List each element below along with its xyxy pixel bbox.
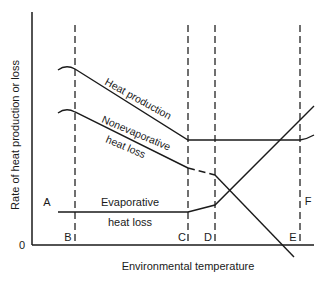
- evaporative-label-line1: Evaporative: [101, 196, 159, 208]
- evaporative-label-line2: heat loss: [108, 216, 153, 228]
- origin-label: 0: [19, 239, 25, 251]
- zone-label-f: F: [305, 195, 312, 207]
- y-axis-label: Rate of heat production or loss: [9, 60, 21, 210]
- zone-label-d: D: [204, 231, 212, 243]
- zone-label-c: C: [178, 231, 186, 243]
- zone-label-a: A: [43, 196, 51, 208]
- nonevaporative-curve-dashed: [188, 168, 215, 175]
- zone-label-b: B: [64, 231, 71, 243]
- heat-production-curve: [58, 67, 314, 140]
- thermoregulation-diagram: Rate of heat production or loss Environm…: [0, 0, 331, 282]
- x-axis-label: Environmental temperature: [122, 260, 255, 272]
- zone-label-e: E: [289, 231, 296, 243]
- heat-production-label: Heat production: [103, 75, 174, 122]
